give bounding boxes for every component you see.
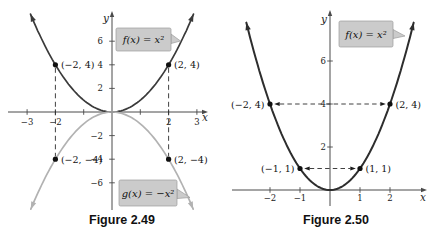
f-function-callout: f(x) = x²	[339, 21, 405, 47]
f-function-label: f(x) = x²	[344, 29, 387, 40]
x-tick-label: 3	[194, 117, 199, 127]
point-label: (−2, 4)	[61, 59, 95, 70]
dash-arrowhead	[350, 167, 356, 171]
f-function-callout: f(x) = x²	[116, 28, 181, 51]
dash-arrowhead	[274, 102, 280, 106]
data-point	[53, 157, 58, 162]
data-point	[267, 101, 272, 106]
point-label: (1, 1)	[366, 163, 392, 174]
point-label: (2, 4)	[174, 59, 200, 70]
curve-arrowhead	[31, 201, 36, 209]
point-label: (2, 4)	[396, 99, 422, 110]
x-axis-label: x	[420, 191, 426, 203]
x-tick-label: −2	[264, 193, 277, 203]
dash-arrowhead	[380, 102, 386, 106]
figure-2-49-plot: −3−223642−2−4−6(−2, 4)(2, 4)(−2, −4)(2, …	[0, 0, 224, 246]
x-tick-label: −3	[21, 117, 34, 127]
callout-tail	[177, 189, 190, 199]
y-axis-label: y	[102, 12, 110, 24]
point-label: (−1, 1)	[261, 163, 295, 174]
data-point	[166, 157, 171, 162]
data-point	[357, 166, 362, 171]
point-label: (2, −4)	[174, 154, 208, 165]
figure-2-50-plot: −2−112642(−2, 4)(2, 4)(−1, 1)(1, 1) x y …	[224, 0, 448, 246]
y-axis-label: y	[320, 13, 328, 25]
figure-caption: Figure 2.50	[266, 213, 406, 227]
figure-caption: Figure 2.49	[52, 213, 192, 227]
f-function-label: f(x) = x²	[122, 34, 165, 45]
x-tick-label: 2	[387, 193, 392, 203]
y-tick-label: 6	[98, 36, 103, 46]
x-tick-label: −1	[294, 193, 307, 203]
curve-arrowhead	[188, 201, 193, 209]
y-tick-label: 4	[98, 60, 103, 70]
y-axis-arrow	[328, 10, 332, 16]
x-axis-label: x	[202, 111, 208, 123]
dash-arrowhead	[304, 167, 310, 171]
data-point	[387, 101, 392, 106]
data-point	[166, 62, 171, 67]
x-tick-label: 1	[357, 193, 362, 203]
curve-arrowhead	[31, 14, 36, 22]
data-point	[297, 166, 302, 171]
y-tick-label: 6	[321, 56, 326, 66]
plot-dynamic-1: −2−112642(−2, 4)(2, 4)(−1, 1)(1, 1)	[231, 10, 427, 206]
point-label: (−2, −4)	[61, 154, 102, 165]
textbook-figure-panel: −3−223642−2−4−6(−2, 4)(2, 4)(−2, −4)(2, …	[0, 0, 448, 246]
y-tick-label: 2	[98, 83, 103, 93]
curve-arrowhead	[246, 23, 251, 31]
g-function-callout: g(x) = −x²	[119, 180, 190, 206]
y-axis-arrow	[110, 11, 114, 17]
callout-tail	[171, 34, 181, 44]
curve-arrowhead	[188, 14, 193, 22]
point-label: (−2, 4)	[231, 99, 265, 110]
data-point	[53, 62, 58, 67]
g-function-label: g(x) = −x²	[122, 188, 175, 199]
y-tick-label: −6	[90, 178, 103, 188]
callout-tail	[393, 30, 405, 39]
curve-arrowhead	[409, 23, 414, 31]
y-tick-label: 2	[321, 142, 326, 152]
y-tick-label: −2	[90, 131, 103, 141]
